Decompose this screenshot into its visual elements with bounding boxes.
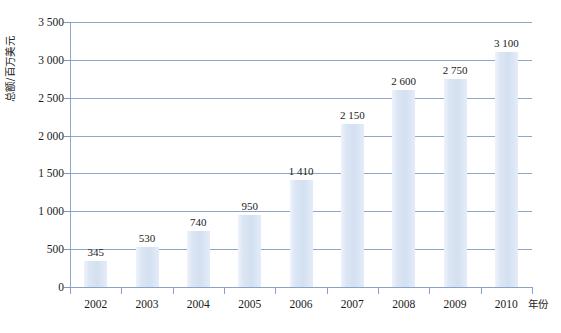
bar [290,180,313,287]
y-axis-tick-labels: 05001 0001 5002 0002 5003 0003 500 [12,22,64,287]
bar [341,124,364,287]
bar-value-label: 345 [69,247,123,258]
x-axis-tick [327,288,328,294]
y-axis-tick [64,136,70,137]
bar [392,90,415,287]
x-axis-tick-label: 2009 [428,298,482,310]
x-axis-tick-label: 2003 [120,298,174,310]
y-axis-tick-label: 2 500 [18,92,64,103]
bar [238,215,261,287]
gridline [70,22,532,23]
x-axis-tick-label: 2005 [223,298,277,310]
x-axis-tick-label: 2004 [171,298,225,310]
x-axis-tick [429,288,430,294]
x-axis-line [70,287,533,288]
gridline [70,60,532,61]
x-axis-tick [378,288,379,294]
y-axis-tick-label: 0 [18,282,64,293]
x-axis-title: 年份 [528,298,548,310]
x-axis-tick-label: 2007 [325,298,379,310]
x-axis-tick [224,288,225,294]
plot-area: 3455307409501 4102 1502 6002 7503 100 [70,22,532,287]
y-axis-tick [64,173,70,174]
x-axis-tick-label: 2010 [479,298,533,310]
y-axis-tick [64,98,70,99]
y-axis-tick [64,60,70,61]
x-axis-tick-label: 2006 [274,298,328,310]
y-axis-tick-label: 1 000 [18,206,64,217]
bar [495,52,518,287]
y-axis-tick-label: 2 000 [18,130,64,141]
x-axis-tick [481,288,482,294]
x-axis-tick [173,288,174,294]
bar [444,79,467,287]
y-axis-tick-label: 500 [18,244,64,255]
x-axis-tick [121,288,122,294]
bar [84,261,107,287]
x-axis-tick [532,288,533,294]
y-axis-tick [64,211,70,212]
bar-value-label: 740 [171,217,225,228]
bar-value-label: 530 [120,233,174,244]
bar [136,247,159,287]
bar-value-label: 3 100 [479,38,533,49]
bar-value-label: 2 150 [325,110,379,121]
x-axis-tick [275,288,276,294]
y-axis-tick-label: 3 500 [18,17,64,28]
y-axis-tick [64,22,70,23]
x-axis-tick-label: 2002 [69,298,123,310]
x-axis-tick [70,288,71,294]
bar [187,231,210,287]
bar-value-label: 2 600 [377,76,431,87]
bar-chart: 总额/百万美元 05001 0001 5002 0002 5003 0003 5… [0,0,561,333]
bar-value-label: 1 410 [274,166,328,177]
y-axis-tick-label: 1 500 [18,168,64,179]
y-axis-tick-label: 3 000 [18,54,64,65]
x-axis-tick-label: 2008 [377,298,431,310]
bar-value-label: 950 [223,201,277,212]
bar-value-label: 2 750 [428,65,482,76]
